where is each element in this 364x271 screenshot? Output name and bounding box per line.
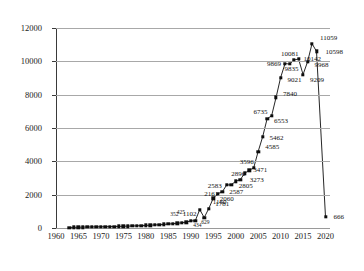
data-point-marker bbox=[238, 178, 241, 181]
data-point-marker bbox=[297, 57, 300, 60]
data-point-marker bbox=[274, 96, 277, 99]
data-point-label: 9968 bbox=[315, 61, 329, 68]
y-axis-labels: 020004000600080001000012000 bbox=[0, 0, 52, 271]
x-tick-label: 2010 bbox=[272, 232, 289, 241]
x-tick-label: 1980 bbox=[137, 232, 154, 241]
gridline bbox=[56, 195, 330, 196]
data-point-label: 2583 bbox=[208, 182, 222, 189]
y-tick-label: 4000 bbox=[25, 157, 42, 166]
data-point-marker bbox=[220, 190, 223, 193]
data-point-marker bbox=[207, 207, 210, 210]
data-point-marker bbox=[252, 166, 255, 169]
y-tick-mark bbox=[52, 61, 56, 62]
y-tick-label: 2000 bbox=[25, 191, 42, 200]
data-point-label: 666 bbox=[334, 213, 345, 220]
data-point-marker bbox=[90, 225, 93, 228]
data-point-marker bbox=[247, 168, 250, 171]
x-tick-label: 1975 bbox=[115, 232, 132, 241]
x-tick-label: 2015 bbox=[295, 232, 312, 241]
data-point-label: 4585 bbox=[265, 143, 279, 150]
data-point-marker bbox=[72, 226, 75, 229]
data-point-marker bbox=[77, 226, 80, 229]
data-point-marker bbox=[270, 114, 273, 117]
data-point-marker bbox=[243, 172, 246, 175]
data-point-label: 7840 bbox=[283, 91, 297, 98]
chart-container: 020004000600080001000012000 352425434110… bbox=[0, 0, 364, 271]
y-tick-label: 10000 bbox=[21, 57, 42, 66]
x-tick-label: 1960 bbox=[48, 232, 65, 241]
x-tick-label: 1970 bbox=[92, 232, 109, 241]
data-point-marker bbox=[279, 76, 282, 79]
data-point-marker bbox=[126, 224, 129, 227]
data-point-label: 629 bbox=[201, 220, 209, 226]
data-point-marker bbox=[180, 221, 183, 224]
data-point-marker bbox=[324, 215, 327, 218]
data-point-label: 1102 bbox=[183, 210, 197, 217]
x-tick-label: 1985 bbox=[160, 232, 177, 241]
data-point-marker bbox=[306, 60, 309, 63]
data-point-marker bbox=[229, 183, 232, 186]
data-point-label: 5462 bbox=[270, 134, 284, 141]
data-point-marker bbox=[310, 42, 313, 45]
data-point-marker bbox=[171, 222, 174, 225]
data-point-marker bbox=[234, 180, 237, 183]
data-point-marker bbox=[140, 224, 143, 227]
data-point-marker bbox=[225, 183, 228, 186]
data-point-marker bbox=[189, 219, 192, 222]
gridline bbox=[56, 161, 330, 162]
data-point-marker bbox=[144, 224, 147, 227]
data-point-marker bbox=[301, 73, 304, 76]
data-point-marker bbox=[167, 222, 170, 225]
plot-area: 3524254341102629116017812060216125832587… bbox=[56, 28, 330, 228]
data-point-label: 6735 bbox=[254, 108, 268, 115]
data-point-marker bbox=[162, 223, 165, 226]
data-point-label: 9869 bbox=[267, 60, 281, 67]
data-point-marker bbox=[95, 225, 98, 228]
y-tick-mark bbox=[52, 228, 56, 229]
data-point-marker bbox=[68, 226, 71, 229]
data-point-marker bbox=[131, 224, 134, 227]
x-tick-label: 2020 bbox=[317, 232, 334, 241]
data-point-marker bbox=[315, 50, 318, 53]
data-point-marker bbox=[153, 223, 156, 226]
data-point-marker bbox=[198, 208, 201, 211]
data-point-label: 6553 bbox=[274, 117, 288, 124]
data-point-marker bbox=[158, 223, 161, 226]
y-tick-label: 0 bbox=[38, 224, 42, 233]
data-point-marker bbox=[117, 225, 120, 228]
data-point-marker bbox=[292, 58, 295, 61]
data-point-label: 3596 bbox=[240, 159, 254, 166]
data-point-label: 11059 bbox=[320, 34, 337, 41]
y-tick-mark bbox=[52, 28, 56, 29]
y-tick-mark bbox=[52, 95, 56, 96]
x-tick-label: 1990 bbox=[182, 232, 199, 241]
data-point-marker bbox=[135, 224, 138, 227]
data-point-marker bbox=[113, 225, 116, 228]
gridline bbox=[56, 28, 330, 29]
y-tick-label: 12000 bbox=[21, 24, 42, 33]
gridline bbox=[56, 128, 330, 129]
x-tick-label: 2000 bbox=[227, 232, 244, 241]
data-point-marker bbox=[108, 225, 111, 228]
data-point-label: 2161 bbox=[204, 190, 218, 197]
data-point-marker bbox=[265, 117, 268, 120]
data-point-marker bbox=[81, 225, 84, 228]
data-point-label: 9021 bbox=[288, 76, 302, 83]
data-point-label: 9209 bbox=[310, 76, 324, 83]
x-tick-label: 2005 bbox=[250, 232, 267, 241]
y-tick-label: 6000 bbox=[25, 124, 42, 133]
data-point-label: 9835 bbox=[285, 66, 299, 73]
y-tick-label: 8000 bbox=[25, 91, 42, 100]
data-point-marker bbox=[176, 222, 179, 225]
data-point-marker bbox=[86, 225, 89, 228]
y-tick-mark bbox=[52, 195, 56, 196]
data-point-marker bbox=[185, 220, 188, 223]
data-point-marker bbox=[104, 225, 107, 228]
data-point-marker bbox=[122, 225, 125, 228]
data-point-label: 10598 bbox=[326, 49, 344, 56]
data-point-label: 3273 bbox=[250, 177, 264, 184]
y-tick-mark bbox=[52, 128, 56, 129]
x-tick-label: 1965 bbox=[70, 232, 87, 241]
data-point-marker bbox=[149, 223, 152, 226]
data-point-marker bbox=[99, 225, 102, 228]
